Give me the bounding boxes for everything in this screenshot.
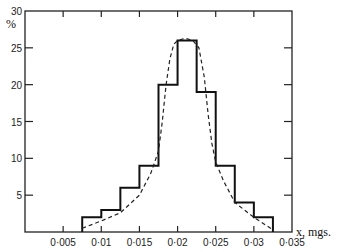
y-tick-label: 25 — [11, 43, 23, 54]
x-tick-label: 0·005 — [50, 237, 76, 248]
y-tick-label: 5 — [16, 190, 22, 201]
y-tick-label: 20 — [11, 80, 23, 91]
x-axis-label: x, mgs. — [296, 225, 331, 239]
x-tick-label: 0·02 — [168, 237, 188, 248]
y-tick-label: 30 — [11, 6, 23, 17]
histogram-steps — [82, 40, 273, 232]
histogram-chart: 0·0050·010·0150·020·0250·030·03551015202… — [0, 0, 338, 252]
y-tick-label: 15 — [11, 117, 23, 128]
x-tick-label: 0·03 — [244, 237, 264, 248]
x-tick-label: 0·025 — [203, 237, 229, 248]
x-tick-label: 0·01 — [91, 237, 111, 248]
y-tick-label: 10 — [11, 153, 23, 164]
y-axis-label: % — [6, 17, 16, 31]
x-tick-label: 0·015 — [127, 237, 153, 248]
